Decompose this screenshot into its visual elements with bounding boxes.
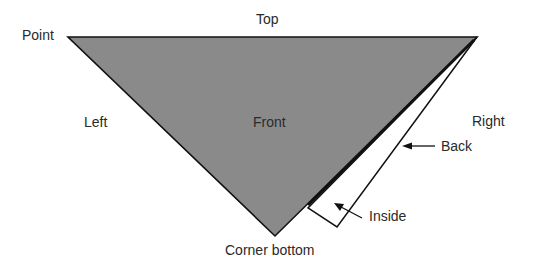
label-back: Back — [441, 139, 472, 153]
label-left: Left — [84, 115, 107, 129]
label-inside: Inside — [369, 209, 406, 223]
back-arrow-head — [402, 143, 412, 150]
label-front: Front — [253, 115, 286, 129]
label-right: Right — [472, 114, 505, 128]
label-corner-bottom: Corner bottom — [225, 243, 314, 257]
label-top: Top — [256, 12, 279, 26]
label-point: Point — [22, 28, 54, 42]
front-face — [68, 37, 477, 236]
